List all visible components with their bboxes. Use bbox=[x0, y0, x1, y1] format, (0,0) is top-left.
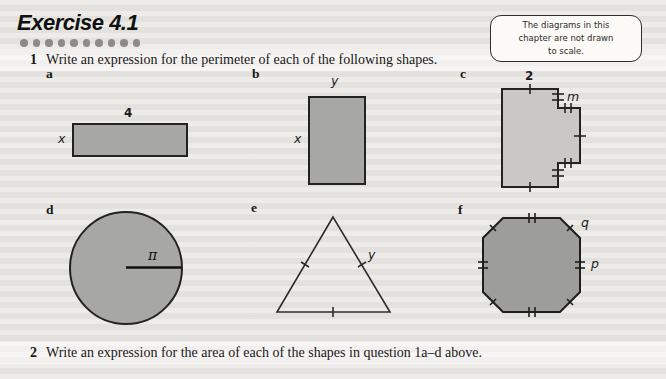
shape-f-side-dimension: p bbox=[591, 256, 599, 271]
shape-c-top-dimension: 2 bbox=[525, 69, 533, 83]
shape-d-circle bbox=[70, 212, 182, 324]
shape-e-side-dimension: y bbox=[368, 247, 375, 262]
shape-a-outline bbox=[73, 124, 187, 156]
shape-a-side-dimension: x bbox=[58, 131, 65, 146]
shape-a-top-dimension: 4 bbox=[124, 106, 132, 120]
shape-f-outline bbox=[483, 218, 580, 312]
textbook-page: Exercise 4.1 The diagrams in this chapte… bbox=[0, 0, 666, 379]
shape-c-tab-dimension: m bbox=[567, 89, 579, 104]
tick-mark bbox=[301, 262, 309, 267]
shape-e-triangle bbox=[277, 217, 390, 317]
shape-f-octagon bbox=[478, 213, 585, 317]
shape-e-outline bbox=[277, 217, 390, 312]
shapes-diagram bbox=[0, 0, 666, 379]
shape-b-outline bbox=[309, 97, 365, 184]
shape-f-diagonal-dimension: q bbox=[581, 215, 589, 230]
shape-d-radius-label: π bbox=[148, 247, 157, 263]
shape-b-rectangle bbox=[309, 97, 365, 184]
shape-b-top-dimension: y bbox=[331, 73, 338, 88]
shape-a-rectangle bbox=[73, 124, 187, 156]
shape-b-side-dimension: x bbox=[294, 131, 301, 146]
